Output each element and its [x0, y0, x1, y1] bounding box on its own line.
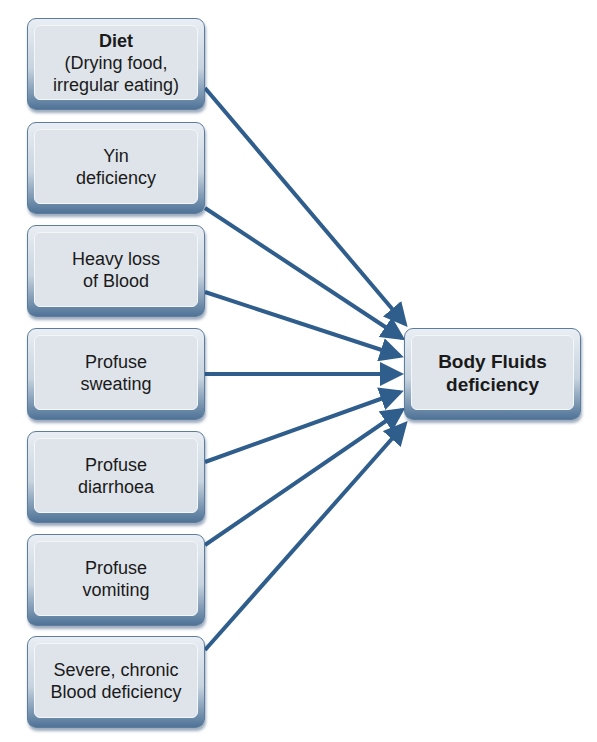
cause-text: irregular eating) [53, 74, 179, 96]
cause-text: Yin [103, 145, 128, 167]
target-text: Body Fluids [438, 350, 547, 373]
cause-text: diarrhoea [78, 476, 154, 498]
cause-box-diet: Diet (Drying food, irregular eating) [27, 18, 205, 110]
cause-text: Profuse [85, 557, 147, 579]
arrow-diet [205, 88, 405, 324]
cause-text: (Drying food, [64, 52, 167, 74]
cause-text: Blood deficiency [50, 681, 181, 703]
arrow-profuse-diarrhoea [205, 392, 400, 462]
cause-text: vomiting [82, 579, 149, 601]
cause-text: Heavy loss [72, 248, 160, 270]
cause-box-yin-deficiency: Yin deficiency [27, 122, 205, 214]
cause-text: of Blood [83, 270, 149, 292]
cause-text: deficiency [76, 167, 156, 189]
target-text: deficiency [446, 373, 539, 396]
cause-title: Diet [99, 30, 133, 52]
cause-box-severe-chronic-blood-deficiency: Severe, chronic Blood deficiency [27, 636, 205, 728]
cause-text: Severe, chronic [53, 659, 178, 681]
cause-box-profuse-sweating: Profuse sweating [27, 328, 205, 420]
arrow-profuse-vomiting [205, 410, 402, 545]
cause-box-heavy-loss-of-blood: Heavy loss of Blood [27, 225, 205, 317]
arrow-yin-deficiency [205, 208, 402, 338]
arrow-heavy-loss-of-blood [205, 292, 400, 356]
cause-box-profuse-diarrhoea: Profuse diarrhoea [27, 431, 205, 523]
cause-text: sweating [80, 373, 151, 395]
cause-text: Profuse [85, 351, 147, 373]
arrow-severe-chronic-blood-deficiency [205, 424, 405, 650]
cause-box-profuse-vomiting: Profuse vomiting [27, 534, 205, 626]
cause-text: Profuse [85, 454, 147, 476]
target-box-body-fluids-deficiency: Body Fluids deficiency [404, 328, 581, 420]
